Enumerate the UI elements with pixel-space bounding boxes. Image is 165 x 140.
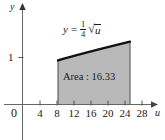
fraction-numerator: 1	[80, 20, 86, 29]
y-tick-label-1: 1	[8, 52, 14, 63]
x-tick-label-20: 20	[103, 108, 114, 119]
x-tick-label-16: 16	[86, 108, 97, 119]
x-tick-label-28: 28	[137, 108, 148, 119]
fraction-denominator: 4	[80, 30, 86, 39]
x-tick-label-8: 8	[54, 108, 60, 119]
radicand: u	[94, 24, 102, 37]
x-tick-label-12: 12	[69, 108, 80, 119]
y-axis-arrow-icon	[19, 3, 25, 10]
area-under-curve-figure: y u 0 1 4 8 12 16 20 24 28 y = 1 4 √ u A…	[0, 0, 165, 140]
equation-equals-sign: =	[71, 24, 77, 35]
function-equation-annotation: y = 1 4 √ u	[63, 20, 101, 39]
y-axis-label: y	[10, 2, 14, 12]
origin-label: 0	[11, 107, 17, 119]
x-tick-label-4: 4	[37, 108, 43, 119]
x-axis-label: u	[155, 108, 160, 118]
equation-fraction: 1 4	[80, 20, 86, 39]
x-tick-label-24: 24	[120, 108, 131, 119]
area-value-annotation: Area : 16.33	[63, 72, 115, 83]
equation-radical: √ u	[88, 23, 101, 37]
equation-lhs: y	[63, 24, 68, 35]
